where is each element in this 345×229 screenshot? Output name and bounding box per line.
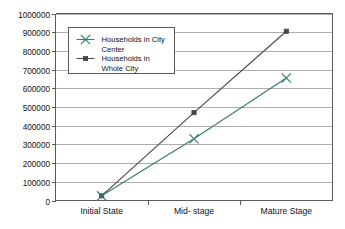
line-chart: 0100000200000300000400000500000600000700… — [0, 0, 345, 229]
y-tick-label: 700000 — [23, 67, 51, 76]
y-tick-label: 800000 — [23, 48, 51, 57]
legend-label: Whole City — [102, 64, 139, 73]
y-axis-ticks — [52, 15, 56, 202]
y-tick-label: 1000000 — [18, 11, 50, 20]
x-axis-labels: Initial StateMid- stageMature Stage — [80, 201, 312, 217]
y-tick-label: 500000 — [23, 104, 51, 113]
legend-label: Households in City — [102, 35, 166, 44]
legend: Households in CityCenterHouseholds inWho… — [69, 28, 175, 74]
legend-label: Center — [102, 45, 125, 54]
x-tick-label: Mature Stage — [261, 206, 313, 216]
series-marker — [284, 29, 288, 33]
series-marker — [192, 111, 196, 115]
y-tick-label: 600000 — [23, 85, 51, 94]
y-tick-label: 200000 — [23, 160, 51, 169]
y-axis-labels: 0100000200000300000400000500000600000700… — [18, 11, 50, 207]
y-tick-label: 0 — [45, 198, 50, 207]
x-tick-label: Initial State — [80, 206, 123, 216]
x-tick-label: Mid- stage — [174, 206, 214, 216]
series-city-center — [97, 73, 291, 200]
series-marker — [83, 56, 87, 60]
series-line — [102, 78, 287, 196]
legend-label: Households in — [102, 54, 150, 63]
y-tick-label: 400000 — [23, 123, 51, 132]
chart-canvas: 0100000200000300000400000500000600000700… — [0, 0, 345, 229]
y-tick-label: 300000 — [23, 141, 51, 150]
y-tick-label: 900000 — [23, 29, 51, 38]
y-tick-label: 100000 — [23, 179, 51, 188]
